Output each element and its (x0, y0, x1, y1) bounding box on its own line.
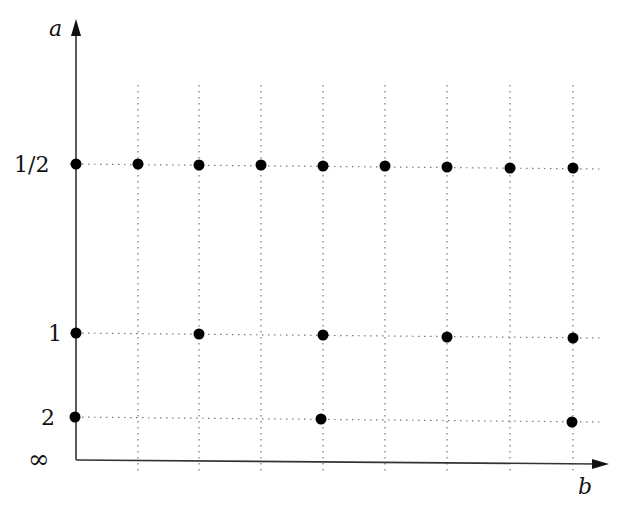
point (71, 328, 82, 339)
grid-vertical (138, 85, 573, 472)
point (194, 329, 205, 340)
point (133, 159, 144, 170)
tick-label-half: 1/2 (14, 152, 49, 177)
y-axis-arrow-icon (71, 19, 81, 36)
point (318, 330, 329, 341)
x-axis (76, 460, 598, 464)
point (380, 161, 391, 172)
lattice-diagram: a b 1/2 1 2 ∞ (0, 0, 636, 511)
points (70, 159, 579, 428)
point (442, 332, 453, 343)
tick-label-one: 1 (48, 321, 62, 346)
point (568, 333, 579, 344)
point (71, 159, 82, 170)
axes (71, 19, 609, 469)
point (442, 162, 453, 173)
point (194, 160, 205, 171)
y-axis-label: a (49, 16, 62, 41)
point (70, 412, 81, 423)
x-axis-label: b (578, 474, 592, 499)
x-axis-arrow-icon (592, 459, 609, 469)
point (505, 163, 516, 174)
point (256, 160, 267, 171)
tick-label-two: 2 (41, 405, 55, 430)
grid-horizontal (70, 164, 600, 422)
point (567, 417, 578, 428)
point (318, 161, 329, 172)
point (316, 414, 327, 425)
tick-label-infinity: ∞ (28, 444, 50, 474)
point (568, 163, 579, 174)
